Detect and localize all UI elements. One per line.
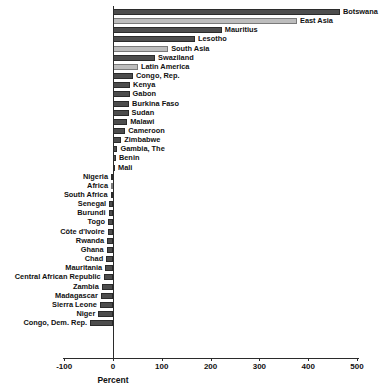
bar-label: Ghana xyxy=(81,245,104,254)
bar-label: Nigeria xyxy=(83,172,108,181)
chart-row: Rwanda xyxy=(0,237,384,246)
bar-gabon xyxy=(113,91,130,97)
chart-row: Burundi xyxy=(0,209,384,218)
x-tick xyxy=(211,358,212,361)
bar-label: Burundi xyxy=(77,208,105,217)
chart-row: Latin America xyxy=(0,63,384,72)
bar-east-asia xyxy=(113,18,297,24)
bar-label: Congo, Rep. xyxy=(136,71,180,80)
chart-row: Ghana xyxy=(0,246,384,255)
x-tick-label: 300 xyxy=(253,362,266,371)
plot-area: BotswanaEast AsiaMauritiusLesothoSouth A… xyxy=(0,0,384,355)
bar-sierra-leone xyxy=(100,302,113,308)
chart-row: Sudan xyxy=(0,109,384,118)
bar-label: Swaziland xyxy=(158,53,194,62)
bar-chart: BotswanaEast AsiaMauritiusLesothoSouth A… xyxy=(0,0,384,392)
x-tick xyxy=(259,358,260,361)
chart-row: Congo, Rep. xyxy=(0,72,384,81)
chart-row: Burkina Faso xyxy=(0,100,384,109)
chart-row: Chad xyxy=(0,255,384,264)
x-axis-title: Percent xyxy=(97,375,128,385)
bar-kenya xyxy=(113,82,130,88)
bar-south-asia xyxy=(113,46,168,52)
x-tick-label: 400 xyxy=(302,362,315,371)
bar-label: Gambia, The xyxy=(120,144,164,153)
x-tick-label: -100 xyxy=(56,362,72,371)
bar-label: Niger xyxy=(76,309,95,318)
bar-label: South Africa xyxy=(64,190,108,199)
bar-mauritius xyxy=(113,27,222,33)
bar-label: East Asia xyxy=(300,16,333,25)
bar-label: Mauritius xyxy=(225,25,258,34)
chart-row: Zimbabwe xyxy=(0,136,384,145)
chart-row: Gambia, The xyxy=(0,145,384,154)
x-tick xyxy=(162,358,163,361)
bar-malawi xyxy=(113,119,127,125)
bar-botswana xyxy=(113,9,340,15)
bar-central-african-republic xyxy=(104,274,113,280)
bar-latin-america xyxy=(113,64,138,70)
x-tick xyxy=(308,358,309,361)
bar-label: Togo xyxy=(88,217,106,226)
x-tick-label: 100 xyxy=(155,362,168,371)
chart-row: Gabon xyxy=(0,90,384,99)
bar-label: Zimbabwe xyxy=(124,135,160,144)
x-tick-label: 500 xyxy=(350,362,363,371)
bar-cameroon xyxy=(113,128,125,134)
bar-label: South Asia xyxy=(171,44,209,53)
bar-label: Cameroon xyxy=(128,126,165,135)
bar-label: Benin xyxy=(119,153,140,162)
chart-row: Mali xyxy=(0,164,384,173)
bar-zimbabwe xyxy=(113,137,121,143)
bar-zambia xyxy=(102,284,113,290)
chart-row: Congo, Dem. Rep. xyxy=(0,319,384,328)
bar-label: Sierra Leone xyxy=(52,300,97,309)
chart-row: Benin xyxy=(0,154,384,163)
chart-row: Kenya xyxy=(0,81,384,90)
chart-row: Senegal xyxy=(0,200,384,209)
bar-label: Sudan xyxy=(132,108,155,117)
bar-label: Africa xyxy=(87,181,108,190)
chart-row: Mauritius xyxy=(0,26,384,35)
bar-label: Malawi xyxy=(130,117,154,126)
bar-label: Chad xyxy=(85,254,103,263)
chart-row: Central African Republic xyxy=(0,273,384,282)
bar-label: Lesotho xyxy=(198,34,227,43)
chart-row: Malawi xyxy=(0,118,384,127)
bar-label: Central African Republic xyxy=(15,272,101,281)
bar-label: Mauritania xyxy=(65,263,102,272)
chart-row: Nigeria xyxy=(0,173,384,182)
bar-label: Latin America xyxy=(141,62,190,71)
chart-row: Togo xyxy=(0,218,384,227)
bar-label: Senegal xyxy=(78,199,106,208)
bar-congo-rep xyxy=(113,73,133,79)
bar-mauritania xyxy=(105,265,113,271)
bar-label: Zambia xyxy=(73,282,99,291)
chart-row: Sierra Leone xyxy=(0,301,384,310)
chart-row: Swaziland xyxy=(0,54,384,63)
bar-sudan xyxy=(113,110,129,116)
bar-label: Madagascar xyxy=(55,291,98,300)
bar-swaziland xyxy=(113,55,155,61)
x-tick xyxy=(357,358,358,361)
bar-label: Mali xyxy=(118,163,132,172)
x-tick xyxy=(64,358,65,361)
bar-label: Kenya xyxy=(133,80,155,89)
chart-row: East Asia xyxy=(0,17,384,26)
bar-label: Rwanda xyxy=(76,236,104,245)
bar-burkina-faso xyxy=(113,101,129,107)
bar-label: Botswana xyxy=(343,7,378,16)
bar-congo-dem-rep xyxy=(90,320,113,326)
bar-label: Gabon xyxy=(133,89,156,98)
bar-chad xyxy=(106,256,113,262)
x-tick-label: 0 xyxy=(111,362,115,371)
chart-row: Cameroon xyxy=(0,127,384,136)
chart-row: Africa xyxy=(0,182,384,191)
bar-label: Côte d'Ivoire xyxy=(60,227,104,236)
bar-label: Congo, Dem. Rep. xyxy=(23,318,87,327)
bar-label: Burkina Faso xyxy=(132,99,179,108)
chart-row: South Africa xyxy=(0,191,384,200)
bar-niger xyxy=(98,311,113,317)
bar-madagascar xyxy=(101,293,113,299)
bar-lesotho xyxy=(113,36,195,42)
